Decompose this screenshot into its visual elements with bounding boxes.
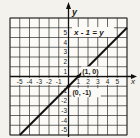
y-tick-label: -5 [61, 126, 67, 133]
x-tick-label: 2 [86, 78, 90, 85]
y-tick-label: 4 [63, 39, 67, 46]
coordinate-plane-chart: -5-4-3-2-11234554321-1-2-3-4-5 (1, 0)(0,… [0, 0, 140, 138]
point-label: (0, -1) [73, 89, 92, 97]
x-tick-label: -2 [46, 78, 52, 85]
x-tick-label: -4 [27, 78, 33, 85]
y-tick-label: 5 [63, 29, 67, 36]
point-label: (1, 0) [82, 68, 98, 76]
x-tick-label: 5 [115, 78, 119, 85]
x-axis-label: x [130, 77, 136, 86]
data-point [67, 84, 71, 88]
data-point [76, 75, 80, 79]
x-tick-label: 3 [96, 78, 100, 85]
y-tick-label: -3 [61, 107, 67, 114]
y-axis-label: y [71, 7, 78, 17]
y-axis-arrow-icon [66, 2, 71, 9]
y-tick-label: 2 [63, 58, 67, 65]
x-tick-label: -1 [56, 78, 62, 85]
x-tick-label: -3 [36, 78, 42, 85]
x-tick-label: -5 [17, 78, 23, 85]
y-tick-label: -4 [61, 117, 67, 124]
x-tick-label: 4 [106, 78, 110, 85]
y-tick-label: 3 [63, 48, 67, 55]
y-tick-label: 1 [63, 68, 67, 75]
equation-label: x - 1 = y [73, 28, 104, 37]
y-tick-label: -2 [61, 97, 67, 104]
